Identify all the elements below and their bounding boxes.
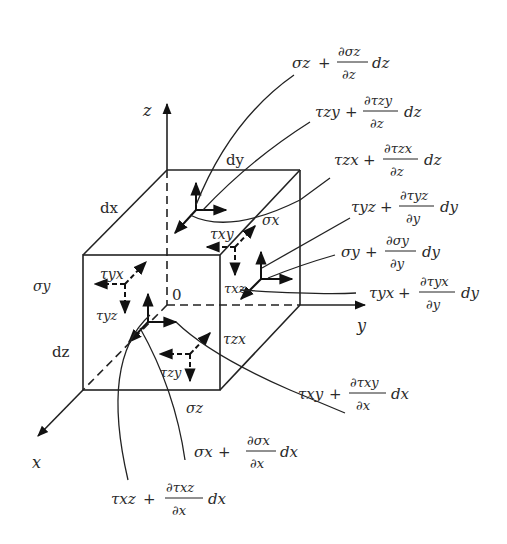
svg-text:dx: dx (208, 490, 227, 508)
svg-text:∂z: ∂z (342, 67, 356, 82)
tau-yz-label: τyz (96, 308, 118, 323)
increment-label-tau-yz: τyz + ∂τyz ∂y dy (351, 188, 459, 226)
y-axis-label: y (356, 316, 367, 335)
svg-text:dy: dy (461, 284, 480, 302)
increment-label-tau-zy: τzy + ∂τzy ∂z dz (315, 93, 422, 131)
svg-text:τxy: τxy (298, 385, 324, 403)
svg-text:σy: σy (341, 243, 360, 261)
increment-label-sigma-y: σy + ∂σy ∂y dy (341, 233, 441, 271)
svg-text:σz: σz (292, 54, 310, 72)
leader-lines (118, 75, 356, 480)
svg-text:dx: dx (280, 443, 299, 461)
svg-text:∂x: ∂x (356, 398, 371, 413)
dz-label: dz (52, 343, 70, 361)
svg-text:dy: dy (422, 243, 441, 261)
sigma-z-label: σz (186, 400, 204, 416)
dx-label: dx (100, 199, 119, 217)
tau-xz-label: τxz (224, 281, 246, 296)
increment-label-tau-xz: τxz + ∂τxz ∂x dx (111, 480, 227, 518)
svg-text:∂τxz: ∂τxz (166, 480, 194, 495)
increment-label-sigma-z: σz + ∂σz ∂z dz (292, 44, 390, 82)
svg-text:∂τzx: ∂τzx (384, 141, 413, 156)
svg-text:+: + (143, 490, 156, 508)
svg-text:+: + (318, 54, 331, 72)
increment-label-tau-yx: τyx + ∂τyx ∂y dy (369, 274, 480, 312)
tau-yx-label: τyx (100, 266, 124, 282)
svg-text:τxz: τxz (111, 490, 136, 508)
svg-text:dz: dz (424, 151, 442, 169)
increment-label-sigma-x: σx + ∂σx ∂x dx (194, 433, 299, 471)
svg-text:∂τyx: ∂τyx (420, 274, 449, 289)
svg-text:∂x: ∂x (172, 503, 187, 518)
svg-text:+: + (365, 243, 378, 261)
x-axis (38, 390, 83, 436)
svg-text:∂y: ∂y (406, 211, 421, 226)
origin-label: 0 (172, 286, 182, 304)
svg-text:∂τxy: ∂τxy (350, 375, 379, 390)
sigma-y-label: σy (33, 278, 52, 294)
svg-text:σx: σx (194, 443, 213, 461)
svg-text:∂z: ∂z (390, 164, 404, 179)
increment-label-tau-xy: τxy + ∂τxy ∂x dx (298, 375, 410, 413)
svg-text:∂σz: ∂σz (338, 44, 361, 59)
tau-xy-label: τxy (210, 226, 235, 242)
front-face-stress-arrows (129, 294, 176, 342)
svg-text:∂τyz: ∂τyz (400, 188, 428, 203)
svg-text:dz: dz (372, 54, 390, 72)
svg-text:+: + (363, 151, 376, 169)
svg-text:∂y: ∂y (426, 297, 441, 312)
svg-text:∂x: ∂x (250, 456, 265, 471)
svg-text:τzx: τzx (334, 151, 359, 169)
svg-text:τyx: τyx (369, 284, 395, 302)
svg-text:+: + (398, 284, 411, 302)
svg-text:τzy: τzy (315, 103, 340, 121)
svg-text:dy: dy (440, 198, 459, 216)
svg-text:∂z: ∂z (370, 116, 384, 131)
svg-text:dz: dz (404, 103, 422, 121)
dy-label: dy (226, 151, 245, 169)
svg-text:+: + (345, 103, 358, 121)
svg-text:+: + (218, 443, 231, 461)
svg-text:+: + (329, 385, 342, 403)
increment-label-tau-zx: τzx + ∂τzx ∂z dz (334, 141, 442, 179)
x-axis-label: x (32, 453, 41, 472)
svg-text:∂y: ∂y (390, 256, 405, 271)
svg-text:∂τzy: ∂τzy (364, 93, 393, 108)
svg-text:∂σx: ∂σx (247, 433, 271, 448)
svg-text:+: + (380, 198, 393, 216)
tau-zx-label: τzx (223, 331, 246, 347)
z-axis-label: z (142, 101, 152, 120)
stress-element-diagram: z y x 0 dx dy dz σy (0, 0, 507, 544)
svg-text:∂σy: ∂σy (386, 233, 410, 248)
svg-text:dx: dx (391, 385, 410, 403)
svg-text:τyz: τyz (351, 198, 376, 216)
